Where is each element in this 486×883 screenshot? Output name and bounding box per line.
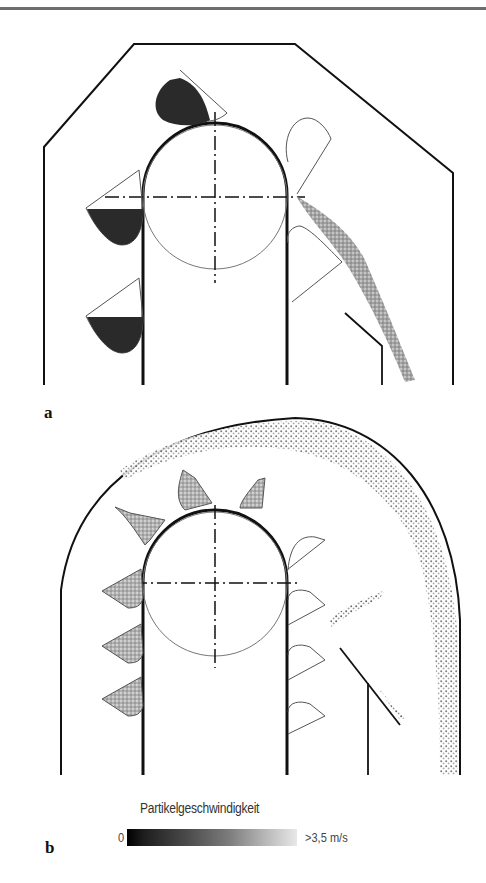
deflector-plate xyxy=(345,313,382,385)
legend-min-label: 0 xyxy=(118,830,124,845)
panel-a-diagram xyxy=(0,0,486,390)
deflector-plate-b xyxy=(340,648,400,725)
legend-gradient-bar xyxy=(127,829,297,846)
belt-outline-b xyxy=(143,510,287,775)
buckets-upper-b xyxy=(115,470,265,545)
panel-b-label: b xyxy=(45,838,54,858)
particle-arc-inner xyxy=(330,590,385,628)
buckets-left-b xyxy=(102,569,143,716)
panel-b-diagram xyxy=(0,400,486,780)
buckets-right-b xyxy=(287,537,325,734)
legend-max-label: >3,5 m/s xyxy=(305,830,348,845)
bucket-top-fill xyxy=(156,78,210,125)
bucket-right-1 xyxy=(286,118,331,194)
legend-title: Partikelgeschwindigkeit xyxy=(140,800,259,816)
particle-band xyxy=(120,421,458,775)
particle-stream xyxy=(296,196,415,382)
